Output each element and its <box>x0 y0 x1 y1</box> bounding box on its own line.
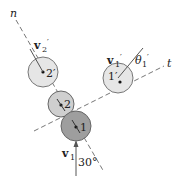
theta1-prime-label: θ 1 ′ <box>135 52 149 69</box>
v2-prime-label: v 2 ′ <box>33 37 49 54</box>
svg-text:v: v <box>33 39 41 52</box>
svg-text:1: 1 <box>142 60 147 69</box>
svg-text:2′: 2′ <box>46 67 56 80</box>
v1-label: v 1 <box>61 147 75 162</box>
svg-text:v: v <box>61 147 69 160</box>
svg-text:1: 1 <box>115 60 120 69</box>
svg-text:2: 2 <box>42 45 47 54</box>
svg-text:1: 1 <box>70 153 75 162</box>
collision-diagram: 2′ 1′ 2 1 n t v 2 ′ v 1 ′ <box>0 0 185 179</box>
svg-text:1′: 1′ <box>108 70 118 83</box>
incident-angle-label: 30° <box>78 156 98 169</box>
svg-text:2: 2 <box>64 98 71 111</box>
svg-text:1: 1 <box>80 121 87 134</box>
normal-axis-label: n <box>10 7 17 20</box>
svg-text:θ: θ <box>135 54 142 67</box>
svg-text:′: ′ <box>120 52 122 61</box>
svg-text:′: ′ <box>147 52 149 61</box>
tangent-axis-label: t <box>167 57 172 70</box>
svg-text:′: ′ <box>47 37 49 46</box>
svg-text:v: v <box>106 54 114 67</box>
